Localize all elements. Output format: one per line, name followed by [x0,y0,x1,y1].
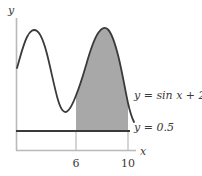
figure-container: y x 6 10 y = sin x + 2 y = 0.5 [0,0,202,176]
x-axis-label: x [140,145,147,158]
curve-equation-label: y = sin x + 2 [133,89,202,102]
x-tick-label-10: 10 [121,157,135,170]
shaded-area-region [76,28,128,131]
x-tick-label-6: 6 [73,157,80,170]
level-equation-label: y = 0.5 [133,121,174,134]
y-axis-label: y [7,4,15,17]
sine-area-plot: y x 6 10 y = sin x + 2 y = 0.5 [0,0,202,176]
